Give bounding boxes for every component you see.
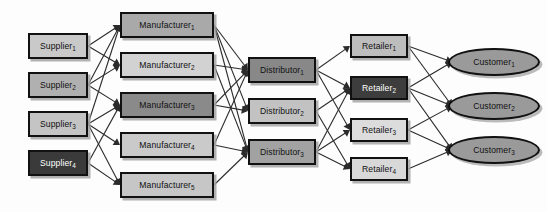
node-label: Customer3 (473, 146, 515, 155)
node-label-subscript: 2 (300, 110, 304, 117)
node-m3[interactable]: Manufacturer3 (120, 92, 214, 118)
edge-s4-m3 (88, 109, 118, 163)
node-label: Retailer4 (362, 165, 396, 174)
edge-s3-m5 (88, 124, 118, 181)
node-label-subscript: 1 (72, 45, 76, 52)
edge-m2-d1 (214, 65, 243, 69)
node-label: Retailer3 (362, 126, 396, 135)
node-r2[interactable]: Retailer2 (350, 76, 408, 100)
node-label: Retailer2 (362, 84, 396, 93)
node-s2[interactable]: Supplier2 (28, 72, 88, 98)
node-s1[interactable]: Supplier1 (28, 33, 88, 59)
edge-d1-r1 (316, 49, 346, 70)
edge-d2-r4 (316, 111, 347, 165)
node-label: Supplier1 (40, 42, 76, 51)
arrowhead-d1-r1 (343, 46, 350, 53)
node-label-subscript: 3 (191, 104, 195, 111)
node-label-subscript: 3 (300, 151, 304, 158)
edge-m5-d3 (214, 155, 244, 185)
node-d2[interactable]: Distributor2 (248, 98, 316, 124)
node-label-subscript: 2 (511, 105, 515, 112)
supply-chain-diagram: Supplier1Supplier2Supplier3Supplier4Manu… (0, 0, 547, 212)
node-label-subscript: 3 (72, 123, 76, 130)
node-c2[interactable]: Customer2 (448, 92, 540, 120)
node-label-subscript: 2 (191, 64, 195, 71)
edge-r4-c3 (408, 152, 448, 169)
node-label-subscript: 2 (392, 87, 396, 94)
node-label-subscript: 2 (72, 84, 76, 91)
node-label-subscript: 3 (511, 149, 515, 156)
node-s3[interactable]: Supplier3 (28, 111, 88, 137)
edge-m1-d3 (214, 25, 247, 147)
edge-m4-d3 (214, 145, 243, 151)
edge-d3-r2 (316, 92, 348, 152)
node-d3[interactable]: Distributor3 (248, 139, 316, 165)
node-label-subscript: 4 (72, 162, 76, 169)
node-label: Customer1 (473, 58, 515, 67)
node-m4[interactable]: Manufacturer4 (120, 132, 214, 158)
edge-s2-m3 (88, 85, 116, 102)
node-c3[interactable]: Customer3 (448, 136, 540, 164)
node-m5[interactable]: Manufacturer5 (120, 172, 214, 198)
node-r3[interactable]: Retailer3 (350, 118, 408, 142)
edge-m1-d1 (214, 25, 245, 66)
node-r1[interactable]: Retailer1 (350, 34, 408, 58)
node-label: Supplier2 (40, 81, 76, 90)
edge-r3-c2 (408, 108, 448, 130)
node-label-subscript: 4 (392, 168, 396, 175)
node-m2[interactable]: Manufacturer2 (120, 52, 214, 78)
node-s4[interactable]: Supplier4 (28, 150, 88, 176)
node-label: Distributor3 (260, 148, 304, 157)
edge-m3-d2 (214, 105, 243, 110)
node-label: Manufacturer1 (139, 21, 195, 30)
node-label: Retailer1 (362, 42, 396, 51)
node-label: Manufacturer3 (139, 101, 195, 110)
node-label-subscript: 1 (300, 69, 304, 76)
node-label: Manufacturer2 (139, 61, 195, 70)
arrowhead-d3-r3 (343, 130, 350, 137)
node-label: Manufacturer4 (139, 141, 195, 150)
node-label-subscript: 4 (191, 144, 195, 151)
node-label: Supplier4 (40, 159, 76, 168)
node-label-subscript: 1 (191, 24, 195, 31)
arrowhead-s3-m4 (113, 138, 120, 145)
node-label-subscript: 3 (392, 129, 396, 136)
node-d1[interactable]: Distributor1 (248, 57, 316, 83)
node-label: Distributor2 (260, 107, 304, 116)
node-label-subscript: 5 (191, 184, 195, 191)
edge-r3-c3 (408, 130, 448, 148)
edge-s4-m5 (88, 163, 116, 182)
node-m1[interactable]: Manufacturer1 (120, 12, 214, 38)
node-label-subscript: 1 (511, 61, 515, 68)
node-label: Supplier3 (40, 120, 76, 129)
node-label-subscript: 1 (392, 45, 396, 52)
node-c1[interactable]: Customer1 (448, 48, 540, 76)
edge-d2-r2 (316, 91, 346, 111)
node-label: Distributor1 (260, 66, 304, 75)
node-label: Manufacturer5 (139, 181, 195, 190)
edge-r2-c1 (408, 65, 448, 88)
edge-r1-c2 (408, 46, 449, 102)
node-label: Customer2 (473, 102, 515, 111)
node-r4[interactable]: Retailer4 (350, 157, 408, 181)
edge-s1-m1 (88, 28, 116, 46)
